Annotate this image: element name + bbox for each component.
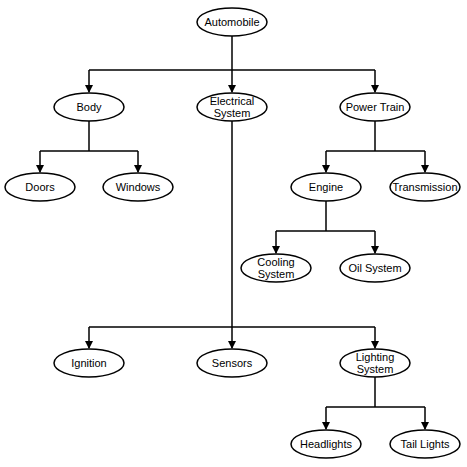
node-label: Sensors (212, 357, 253, 369)
node-label: Automobile (204, 16, 259, 28)
node-label: System (357, 363, 394, 375)
node-power-train[interactable]: Power Train (340, 93, 410, 121)
node-label: System (214, 107, 251, 119)
node-cooling-system[interactable]: CoolingSystem (241, 254, 311, 282)
node-label: Electrical (210, 95, 255, 107)
node-electrical-system[interactable]: ElectricalSystem (197, 93, 267, 121)
node-body[interactable]: Body (54, 93, 124, 121)
node-label: Ignition (71, 357, 106, 369)
node-label: Body (76, 101, 102, 113)
node-lighting-system[interactable]: LightingSystem (340, 349, 410, 377)
node-label: Oil System (348, 262, 401, 274)
node-label: Doors (25, 181, 55, 193)
diagram-svg: AutomobileBodyElectricalSystemPower Trai… (0, 0, 467, 467)
node-oil-system[interactable]: Oil System (340, 254, 410, 282)
node-label: Tail Lights (401, 438, 450, 450)
node-automobile[interactable]: Automobile (197, 8, 267, 36)
node-windows[interactable]: Windows (103, 173, 173, 201)
node-label: System (258, 268, 295, 280)
node-headlights[interactable]: Headlights (291, 430, 361, 458)
node-label: Transmission (393, 181, 458, 193)
node-label: Windows (116, 181, 161, 193)
node-engine[interactable]: Engine (291, 173, 361, 201)
node-label: Cooling (257, 256, 294, 268)
node-ignition[interactable]: Ignition (54, 349, 124, 377)
node-label: Lighting (356, 351, 395, 363)
hierarchy-diagram: AutomobileBodyElectricalSystemPower Trai… (0, 0, 467, 467)
node-doors[interactable]: Doors (5, 173, 75, 201)
node-tail-lights[interactable]: Tail Lights (390, 430, 460, 458)
node-label: Engine (309, 181, 343, 193)
node-label: Headlights (300, 438, 352, 450)
node-sensors[interactable]: Sensors (197, 349, 267, 377)
node-transmission[interactable]: Transmission (390, 173, 460, 201)
node-label: Power Train (346, 101, 405, 113)
